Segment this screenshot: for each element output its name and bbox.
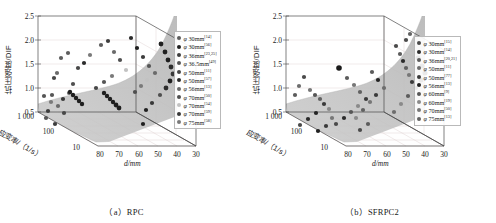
x-tick: 40 bbox=[173, 150, 181, 159]
z-tick: 100 bbox=[43, 127, 55, 136]
y-tick: 2.0 bbox=[273, 36, 283, 45]
z-tick: 1 000 bbox=[265, 112, 282, 121]
legend-sfrpc2: φ 30mm[15] φ 30mm[14] φ 36mm[20,21] φ 50… bbox=[414, 36, 461, 126]
y-axis-ticks-rpc: 2.5 2.0 1.5 1.0 0.5 bbox=[25, 12, 41, 117]
panel-rpc: 2.5 2.0 1.5 1.0 0.5 80 70 60 50 bbox=[0, 0, 248, 223]
y-axis-label-sfrpc2: 抗压强度/DIF bbox=[251, 45, 262, 94]
x-tick: 30 bbox=[192, 150, 200, 159]
panel-sfrpc2: 2.5 2.0 1.5 1.0 0.5 80 70 60 50 bbox=[248, 0, 496, 223]
legend-marker-icon bbox=[177, 53, 181, 57]
y-tick: 1.0 bbox=[273, 84, 283, 93]
legend-marker-icon bbox=[417, 100, 421, 104]
z-tick: 10 bbox=[321, 143, 329, 152]
legend-marker-icon bbox=[177, 78, 181, 82]
fitted-surface-rpc bbox=[38, 16, 196, 142]
x-axis-label-sfrpc2: d/mm bbox=[372, 159, 389, 168]
legend-marker-icon bbox=[417, 66, 421, 70]
legend-marker-icon bbox=[177, 120, 181, 124]
legend-marker-icon bbox=[177, 87, 181, 91]
figure-3d-scatter-pair: 2.5 2.0 1.5 1.0 0.5 80 70 60 50 bbox=[0, 0, 496, 223]
legend-marker-icon bbox=[417, 92, 421, 96]
legend-rpc: φ 30mm[14] φ 30mm[56] φ 36mm[23,25] φ 36… bbox=[174, 31, 221, 129]
z-tick: 100 bbox=[291, 127, 303, 136]
y-tick: 2.5 bbox=[25, 12, 35, 21]
x-tick: 80 bbox=[344, 150, 352, 159]
panel-caption-sfrpc2: （b）SFRPC2 bbox=[248, 205, 496, 217]
y-tick: 2.5 bbox=[273, 12, 283, 21]
legend-marker-icon bbox=[177, 103, 181, 107]
x-tick: 50 bbox=[402, 150, 410, 159]
legend-item[interactable]: φ 75mm[58] bbox=[177, 118, 217, 126]
y-axis-ticks-sfrpc2: 2.5 2.0 1.5 1.0 0.5 bbox=[273, 12, 289, 117]
x-tick: 70 bbox=[115, 150, 123, 159]
x-tick: 80 bbox=[96, 150, 104, 159]
legend-marker-icon bbox=[417, 58, 421, 62]
x-tick: 60 bbox=[135, 150, 143, 159]
y-tick: 1.5 bbox=[25, 60, 35, 69]
x-axis-label-rpc: d/mm bbox=[124, 159, 141, 168]
legend-label: φ 75mm[13] bbox=[424, 113, 452, 123]
legend-marker-icon bbox=[177, 61, 181, 65]
legend-marker-icon bbox=[177, 112, 181, 116]
x-tick: 30 bbox=[440, 150, 448, 159]
y-tick: 2.0 bbox=[25, 36, 35, 45]
x-tick: 40 bbox=[421, 150, 429, 159]
z-tick: 10 bbox=[73, 143, 81, 152]
plot-area-rpc: 2.5 2.0 1.5 1.0 0.5 80 70 60 50 bbox=[0, 0, 248, 190]
legend-item[interactable]: φ 75mm[13] bbox=[417, 115, 457, 123]
legend-marker-icon bbox=[177, 95, 181, 99]
legend-marker-icon bbox=[417, 83, 421, 87]
legend-marker-icon bbox=[417, 41, 421, 45]
x-axis-ticks-sfrpc2: 80 70 60 50 40 30 bbox=[344, 150, 448, 159]
x-tick: 70 bbox=[363, 150, 371, 159]
legend-label: φ 75mm[58] bbox=[184, 117, 212, 127]
plot-area-sfrpc2: 2.5 2.0 1.5 1.0 0.5 80 70 60 50 bbox=[248, 0, 496, 190]
legend-marker-icon bbox=[417, 117, 421, 121]
y-tick: 1.5 bbox=[273, 60, 283, 69]
legend-marker-icon bbox=[177, 70, 181, 74]
legend-marker-icon bbox=[417, 75, 421, 79]
panel-caption-rpc: （a）RPC bbox=[0, 205, 248, 217]
y-tick: 1.0 bbox=[25, 84, 35, 93]
x-tick: 60 bbox=[383, 150, 391, 159]
legend-marker-icon bbox=[177, 36, 181, 40]
legend-marker-icon bbox=[417, 108, 421, 112]
legend-marker-icon bbox=[177, 45, 181, 49]
z-tick: 1 000 bbox=[17, 112, 34, 121]
legend-marker-icon bbox=[417, 50, 421, 54]
y-axis-label-rpc: 抗压强度/DIF bbox=[3, 45, 14, 94]
x-tick: 50 bbox=[154, 150, 162, 159]
x-axis-ticks-rpc: 80 70 60 50 40 30 bbox=[96, 150, 200, 159]
